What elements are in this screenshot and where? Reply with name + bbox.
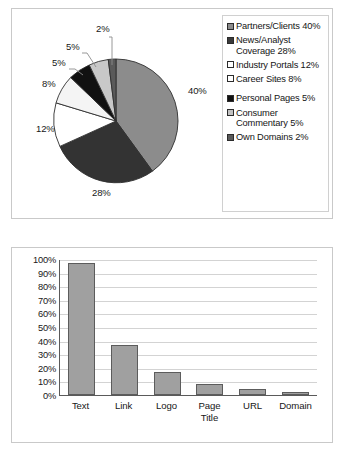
bar-chart-x-axis: TextLinkLogoPageTitleURLDomain bbox=[59, 400, 317, 423]
legend-swatch-news-analyst-coverage bbox=[227, 37, 234, 44]
y-tick-label: 30% bbox=[38, 350, 56, 360]
x-tick-label: PageTitle bbox=[188, 400, 231, 423]
bar-text bbox=[68, 263, 95, 395]
pie-data-label-career-sites: 8% bbox=[42, 78, 56, 89]
legend-item-consumer-commentary: Consumer Commentary 5% bbox=[227, 108, 325, 129]
x-tick-label: Link bbox=[102, 400, 145, 423]
legend-swatch-personal-pages bbox=[227, 95, 234, 102]
y-tick-label: 40% bbox=[38, 337, 56, 347]
bar-slot-text bbox=[60, 260, 103, 395]
bar-link bbox=[111, 345, 138, 395]
legend-label-career-sites: Career Sites 8% bbox=[236, 74, 301, 85]
chart-page: 40% 28% 12% 8% 5% 5% 2% Partners/Clients… bbox=[0, 0, 341, 451]
pie-data-label-consumer-commentary: 5% bbox=[66, 41, 80, 52]
legend-label-consumer-commentary: Consumer Commentary 5% bbox=[236, 108, 325, 129]
y-tick-label: 80% bbox=[38, 282, 56, 292]
legend-label-news-analyst-coverage: News/Analyst Coverage 28% bbox=[236, 35, 325, 56]
y-tick-label: 100% bbox=[33, 255, 56, 265]
pie-chart-area: 40% 28% 12% 8% 5% 5% 2% bbox=[12, 9, 220, 218]
legend-item-personal-pages: Personal Pages 5% bbox=[227, 93, 325, 104]
legend-swatch-own-domains bbox=[227, 134, 234, 141]
pie-data-label-industry-portals: 12% bbox=[36, 123, 55, 134]
legend-item-career-sites: Career Sites 8% bbox=[227, 74, 325, 85]
pie-chart-panel: 40% 28% 12% 8% 5% 5% 2% Partners/Clients… bbox=[11, 8, 333, 219]
bar-chart-area: 100%90%80%70%60%50%40%30%20%10%0% bbox=[12, 248, 332, 442]
y-tick-label: 0% bbox=[43, 391, 56, 401]
bar-chart-y-axis: 100%90%80%70%60%50%40%30%20%10%0% bbox=[22, 260, 56, 396]
bar-chart-panel: 100%90%80%70%60%50%40%30%20%10%0% bbox=[11, 247, 333, 443]
legend-swatch-consumer-commentary bbox=[227, 109, 234, 116]
bar-chart-plot-area bbox=[59, 260, 317, 396]
bar-url bbox=[239, 389, 266, 395]
bar-slot-domain bbox=[274, 260, 317, 395]
y-tick-label: 60% bbox=[38, 309, 56, 319]
pie-data-label-partners-clients: 40% bbox=[188, 85, 207, 96]
pie-chart-legend: Partners/Clients 40% News/Analyst Covera… bbox=[222, 15, 329, 212]
bar-slot-url bbox=[231, 260, 274, 395]
legend-swatch-industry-portals bbox=[227, 61, 234, 68]
legend-item-partners-clients: Partners/Clients 40% bbox=[227, 21, 325, 32]
y-tick-label: 90% bbox=[38, 269, 56, 279]
x-tick-label: URL bbox=[231, 400, 274, 423]
y-tick-label: 70% bbox=[38, 296, 56, 306]
bar-slot-page-title bbox=[188, 260, 231, 395]
legend-item-news-analyst-coverage: News/Analyst Coverage 28% bbox=[227, 35, 325, 56]
x-tick-label: Text bbox=[59, 400, 102, 423]
legend-label-personal-pages: Personal Pages 5% bbox=[236, 93, 315, 104]
pie-data-label-news-analyst-coverage: 28% bbox=[92, 187, 111, 198]
legend-label-partners-clients: Partners/Clients 40% bbox=[236, 21, 320, 32]
y-tick-label: 10% bbox=[38, 377, 56, 387]
pie-data-label-own-domains: 2% bbox=[96, 23, 110, 34]
legend-swatch-career-sites bbox=[227, 75, 234, 82]
legend-swatch-partners-clients bbox=[227, 23, 234, 30]
pie-data-label-personal-pages: 5% bbox=[52, 57, 66, 68]
bar-series bbox=[60, 260, 317, 395]
bar-domain bbox=[282, 392, 309, 395]
bar-logo bbox=[154, 372, 181, 395]
y-tick-label: 50% bbox=[38, 323, 56, 333]
x-tick-label: Logo bbox=[145, 400, 188, 423]
pie-chart-graphic bbox=[12, 9, 220, 218]
bar-slot-link bbox=[103, 260, 146, 395]
legend-label-industry-portals: Industry Portals 12% bbox=[236, 60, 319, 71]
legend-item-own-domains: Own Domains 2% bbox=[227, 132, 325, 143]
y-tick-label: 20% bbox=[38, 364, 56, 374]
bar-page-title bbox=[196, 384, 223, 395]
bar-slot-logo bbox=[146, 260, 189, 395]
legend-item-industry-portals: Industry Portals 12% bbox=[227, 60, 325, 71]
legend-label-own-domains: Own Domains 2% bbox=[236, 132, 308, 143]
x-tick-label: Domain bbox=[274, 400, 317, 423]
